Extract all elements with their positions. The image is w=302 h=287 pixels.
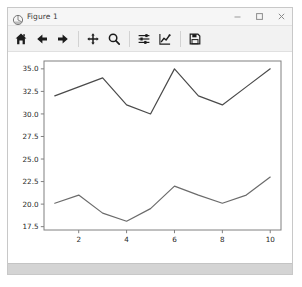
toolbar-separator-3 <box>180 31 181 47</box>
pan-icon[interactable] <box>83 29 103 49</box>
figure-window: Figure 1 <box>7 7 293 275</box>
navigation-toolbar <box>8 26 292 52</box>
toolbar-separator-1 <box>78 31 79 47</box>
zoom-magnifier-icon[interactable] <box>104 29 124 49</box>
maximize-button[interactable] <box>248 8 270 25</box>
line-chart: 17.520.022.525.027.530.032.535.0246810 <box>8 52 292 263</box>
figure-canvas[interactable]: 17.520.022.525.027.530.032.535.0246810 <box>8 52 292 263</box>
svg-text:25.0: 25.0 <box>22 155 38 164</box>
minimize-button[interactable] <box>226 8 248 25</box>
back-arrow-icon[interactable] <box>32 29 52 49</box>
forward-arrow-icon[interactable] <box>53 29 73 49</box>
close-button[interactable] <box>270 8 292 25</box>
svg-text:17.5: 17.5 <box>22 222 38 231</box>
svg-text:6: 6 <box>172 235 177 244</box>
toolbar-separator-2 <box>129 31 130 47</box>
title-bar: Figure 1 <box>8 8 292 26</box>
edit-axis-icon[interactable] <box>155 29 175 49</box>
svg-text:10: 10 <box>266 235 276 244</box>
matplotlib-icon <box>12 11 24 23</box>
svg-text:35.0: 35.0 <box>22 64 38 73</box>
svg-text:2: 2 <box>76 235 81 244</box>
svg-text:8: 8 <box>220 235 225 244</box>
configure-subplots-icon[interactable] <box>134 29 154 49</box>
svg-text:32.5: 32.5 <box>22 87 38 96</box>
figure-background <box>8 52 292 263</box>
home-icon[interactable] <box>11 29 31 49</box>
svg-text:27.5: 27.5 <box>22 132 38 141</box>
status-bar <box>8 263 292 274</box>
svg-text:20.0: 20.0 <box>22 200 38 209</box>
save-floppy-icon[interactable] <box>185 29 205 49</box>
svg-text:4: 4 <box>124 235 129 244</box>
svg-text:30.0: 30.0 <box>22 110 38 119</box>
window-title: Figure 1 <box>27 12 226 21</box>
svg-text:22.5: 22.5 <box>22 177 38 186</box>
